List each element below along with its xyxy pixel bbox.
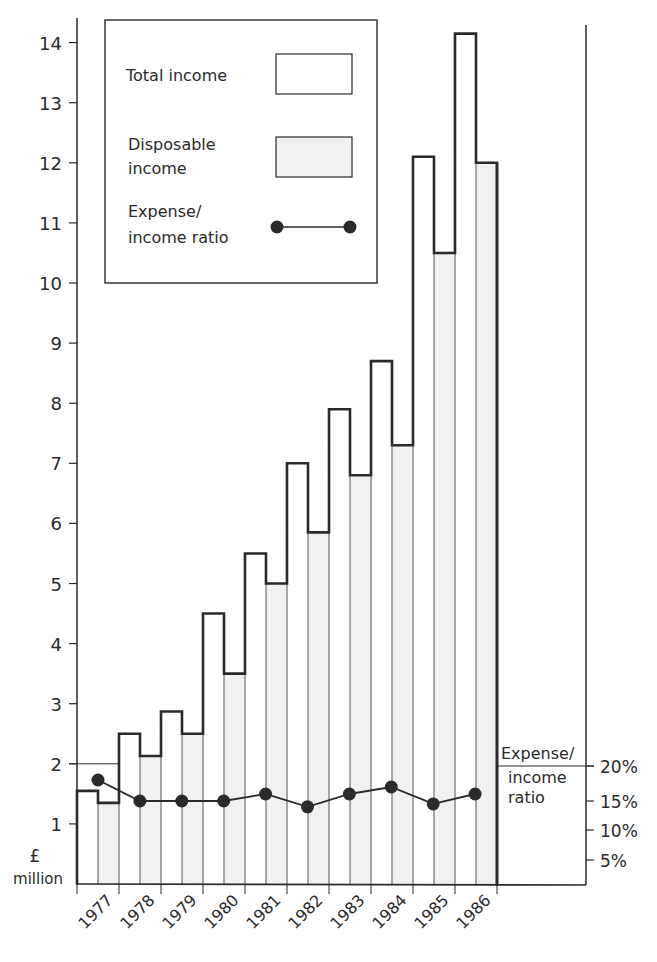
y-tick-label: 10 [39,273,62,294]
y-tick-label: 14 [39,33,62,54]
expense-ratio-dot [301,800,314,813]
legend-dot-icon [344,221,357,234]
total-income-bar [203,614,224,884]
y-axis-label-currency: £ [30,846,41,866]
disposable-income-bar [98,803,119,884]
disposable-income-bar [224,674,245,884]
secondary-tick-label: 5% [600,851,627,871]
disposable-income-bar [266,584,287,885]
x-tick-label: 1977 [74,891,116,933]
disposable-income-bar [476,163,497,884]
legend-label-disposable-income: Disposable [128,135,216,154]
disposable-income-bar [308,532,329,884]
chart-canvas: Total incomeDisposableincomeExpense/inco… [0,0,657,962]
expense-ratio-dot [259,788,272,801]
total-income-bar [287,463,308,884]
total-income-bar [77,791,98,884]
legend-label-total-income: Total income [125,66,227,85]
secondary-axis-label: ratio [508,788,545,807]
total-income-bar [413,157,434,884]
y-tick-label: 1 [51,814,62,835]
secondary-tick-label: 10% [600,821,638,841]
secondary-axis-label: Expense/ [501,744,575,763]
y-tick-label: 12 [39,153,62,174]
expense-ratio-dot [343,788,356,801]
legend-swatch-total-income [276,54,352,94]
legend-dot-icon [271,221,284,234]
x-tick-label: 1986 [452,891,494,933]
x-tick-label: 1980 [200,891,242,933]
x-tick-label: 1978 [116,891,158,933]
x-tick-label: 1979 [158,891,200,933]
y-tick-label: 6 [51,513,62,534]
y-tick-label: 8 [51,393,62,414]
legend-swatch-disposable-income [276,137,352,177]
y-tick-label: 3 [51,694,62,715]
x-tick-label: 1985 [410,891,452,933]
x-tick-label: 1981 [242,891,284,933]
disposable-income-bar [140,756,161,884]
y-tick-label: 13 [39,93,62,114]
disposable-income-bar [392,445,413,884]
secondary-tick-label: 20% [600,757,638,777]
y-tick-label: 4 [51,634,62,655]
y-tick-label: 9 [51,333,62,354]
legend-label-expense-ratio: income ratio [128,228,229,247]
total-income-bar [245,553,266,884]
total-income-bar [371,361,392,884]
total-income-bar [119,734,140,884]
x-tick-label: 1982 [284,891,326,933]
expense-ratio-dot [92,774,105,787]
disposable-income-bar [434,253,455,884]
legend-label-disposable-income: income [128,159,187,178]
y-tick-label: 11 [39,213,62,234]
expense-ratio-dot [217,795,230,808]
y-tick-label: 7 [51,453,62,474]
x-tick-label: 1983 [326,891,368,933]
disposable-income-bar [182,734,203,884]
total-income-bar [329,409,350,884]
disposable-income-bar [350,475,371,884]
secondary-axis-label: income [508,768,567,787]
expense-ratio-dot [469,788,482,801]
expense-ratio-dot [427,797,440,810]
y-tick-label: 2 [51,754,62,775]
legend-label-expense-ratio: Expense/ [128,202,202,221]
expense-ratio-dot [385,781,398,794]
expense-ratio-dot [133,795,146,808]
legend: Total incomeDisposableincomeExpense/inco… [105,20,377,283]
y-tick-label: 5 [51,574,62,595]
x-axis [77,884,586,885]
x-tick-label: 1984 [368,891,410,933]
total-income-bar [455,34,476,884]
y-axis-label-unit: million [13,870,63,888]
secondary-tick-label: 15% [600,792,638,812]
expense-ratio-dot [175,795,188,808]
